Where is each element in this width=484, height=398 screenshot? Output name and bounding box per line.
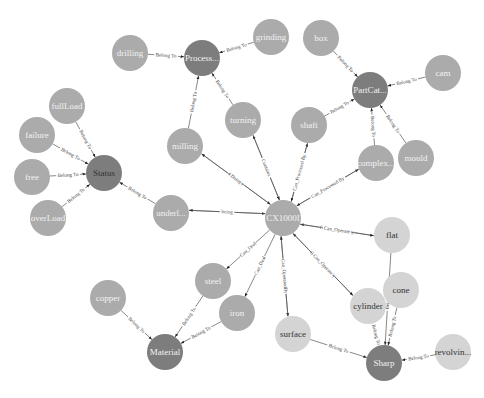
- edge-label: Can_Deal: [253, 255, 266, 276]
- edge[interactable]: Belong To: [402, 353, 435, 363]
- edge-label: Belong To: [396, 77, 418, 87]
- node-complex[interactable]: complex...: [357, 145, 395, 181]
- edge[interactable]: Belong To: [388, 76, 426, 87]
- node-label: drilling: [117, 48, 144, 58]
- node-overload[interactable]: overLoad: [30, 200, 66, 236]
- node-underl[interactable]: underl...: [153, 195, 189, 231]
- edge-label: Contains: [261, 159, 272, 177]
- node-milling[interactable]: milling: [167, 128, 203, 164]
- node-grinding[interactable]: grinding: [253, 19, 289, 55]
- edge[interactable]: Can_Processed By: [291, 143, 308, 201]
- edge[interactable]: Belong To: [310, 339, 367, 357]
- node-label: overLoad: [31, 213, 66, 223]
- node-label: grinding: [256, 32, 287, 42]
- edge[interactable]: Belong To: [188, 76, 198, 129]
- edge-label: Belong To: [371, 324, 382, 346]
- node-mould[interactable]: mould: [398, 140, 434, 176]
- edge-label: Belong To: [388, 315, 398, 337]
- node-label: box: [314, 33, 328, 43]
- knowledge-graph: Belong ToBelong ToBelong ToBelong ToBelo…: [0, 0, 484, 398]
- node-label: iron: [230, 308, 245, 318]
- edge[interactable]: Can_Processed By: [297, 169, 359, 206]
- edge[interactable]: Belong To: [380, 105, 406, 143]
- edge-label: Can_Operate: [312, 253, 334, 276]
- node-fullload[interactable]: fullLoad: [49, 88, 85, 124]
- edge-label: Can_Processed By: [310, 176, 345, 200]
- node-iron[interactable]: iron: [219, 295, 255, 331]
- node-cylinder[interactable]: cylinder: [350, 288, 386, 324]
- node-turning[interactable]: turning: [225, 102, 261, 138]
- edge[interactable]: Belong To: [370, 322, 382, 346]
- edge[interactable]: Belong To: [50, 171, 86, 178]
- edge[interactable]: Can_OperatedBy: [280, 236, 289, 316]
- edge-label: Belong To: [337, 55, 355, 74]
- node-revolvin[interactable]: revolvin...: [435, 334, 472, 370]
- node-label: mould: [404, 153, 428, 163]
- node-copper[interactable]: copper: [90, 280, 126, 316]
- node-material[interactable]: Material: [147, 334, 183, 370]
- node-process[interactable]: Process...: [184, 40, 220, 76]
- edge-label: Belong To: [127, 316, 146, 334]
- edge-label: Belong To: [385, 114, 401, 134]
- node-cam[interactable]: cam: [425, 55, 461, 91]
- node-partcat[interactable]: PartCat...: [352, 72, 388, 108]
- node-box[interactable]: box: [303, 20, 339, 56]
- node-label: CX1000I: [266, 213, 300, 223]
- edge-label: Can_Processed By: [292, 153, 307, 191]
- node-label: underl...: [156, 208, 186, 218]
- edge[interactable]: Doing: [202, 154, 271, 205]
- edge-label: Belong To: [78, 129, 93, 150]
- edge-label: Belong To: [60, 147, 81, 162]
- node-label: Material: [150, 347, 181, 357]
- node-free[interactable]: free: [14, 159, 50, 195]
- node-label: cam: [436, 68, 451, 78]
- edge-label: Belong To: [191, 325, 212, 340]
- node-label: steel: [205, 276, 222, 286]
- node-steel[interactable]: steel: [195, 263, 231, 299]
- edge-label: Belong To: [189, 91, 198, 113]
- node-sharp[interactable]: Sharp: [366, 345, 402, 381]
- node-cone[interactable]: cone: [383, 272, 419, 308]
- node-label: free: [25, 172, 39, 182]
- node-label: cone: [393, 285, 410, 295]
- node-failure[interactable]: failure: [19, 117, 55, 153]
- node-label: shaft: [300, 120, 318, 130]
- node-label: Sharp: [374, 358, 395, 368]
- node-label: turning: [230, 115, 256, 125]
- edge[interactable]: Belong To: [53, 144, 89, 164]
- edge[interactable]: Belong To: [333, 51, 357, 77]
- node-flat[interactable]: flat: [374, 217, 410, 253]
- edge-label: Belong To: [181, 306, 197, 326]
- edge[interactable]: Belong To: [119, 182, 155, 204]
- edge[interactable]: Belong To: [62, 184, 90, 206]
- edge[interactable]: Belong To: [325, 99, 355, 116]
- edge-label: Belong To: [328, 343, 350, 354]
- edge[interactable]: Belong To: [369, 108, 377, 145]
- node-label: cylinder: [353, 301, 383, 311]
- edge-label: Belong To: [226, 42, 248, 53]
- edge[interactable]: Belong To: [148, 52, 184, 60]
- edge[interactable]: Belong To: [212, 73, 233, 105]
- edge[interactable]: Can_Operate: [300, 224, 373, 235]
- nodes-layer: drillingProcess...grindingboxPartCat...c…: [14, 19, 471, 381]
- edge-label: Belong To: [66, 187, 86, 204]
- node-label: revolvin...: [435, 347, 472, 357]
- edge[interactable]: Belong To: [121, 310, 152, 339]
- node-drilling[interactable]: drilling: [112, 35, 148, 71]
- edge-label: Belong To: [329, 100, 350, 115]
- node-cx1000i[interactable]: CX1000I: [265, 200, 301, 236]
- node-status[interactable]: Status: [86, 155, 122, 191]
- edge-label: being: [221, 209, 233, 215]
- node-label: surface: [280, 329, 306, 339]
- edge-label: Belong To: [215, 79, 231, 100]
- edge[interactable]: being: [189, 209, 265, 216]
- edge[interactable]: Belong To: [219, 41, 254, 54]
- edge[interactable]: Contains: [253, 135, 279, 200]
- edge[interactable]: Belong To: [387, 308, 398, 346]
- edge[interactable]: Can_Operate: [293, 233, 353, 295]
- edge[interactable]: Belong To: [76, 122, 96, 157]
- node-label: Process...: [185, 53, 219, 63]
- node-surface[interactable]: surface: [275, 316, 311, 352]
- node-shaft[interactable]: shaft: [291, 107, 327, 143]
- node-label: Status: [93, 168, 116, 178]
